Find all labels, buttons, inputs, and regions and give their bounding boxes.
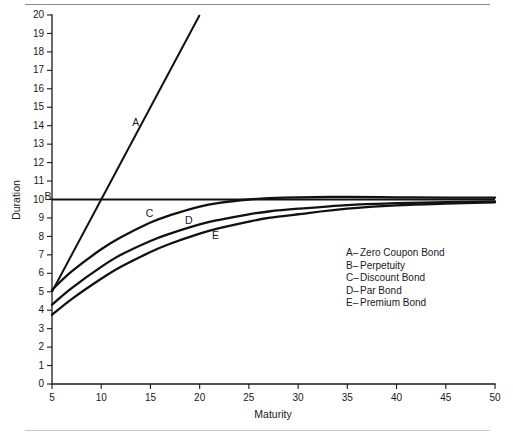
legend-marker-3: D– <box>346 285 359 296</box>
x-tick-label: 40 <box>391 392 403 403</box>
top-divider-rule <box>25 4 490 5</box>
series-inline-labels: ABCDE <box>45 116 219 241</box>
chart-legend: A–Zero Coupon BondB–PerpetuityC–Discount… <box>346 247 445 308</box>
x-tick-label: 45 <box>440 392 452 403</box>
y-tick-label: 9 <box>38 212 44 223</box>
y-tick-label: 18 <box>33 46 45 57</box>
y-tick-label: 8 <box>38 231 44 242</box>
y-tick-label: 13 <box>33 138 45 149</box>
y-tick-label: 0 <box>38 378 44 389</box>
series-label-a: A <box>132 116 139 128</box>
y-axis-title: Duration <box>10 180 22 220</box>
y-tick-label: 12 <box>33 157 45 168</box>
y-tick-label: 7 <box>38 249 44 260</box>
x-tick-label: 35 <box>342 392 354 403</box>
y-tick-label: 3 <box>38 323 44 334</box>
x-axis-ticks: 5101520253035404550 <box>49 384 501 403</box>
series-curve-e <box>52 202 495 315</box>
series-label-e: E <box>212 229 219 241</box>
y-tick-label: 17 <box>33 64 45 75</box>
legend-marker-4: E– <box>346 297 359 308</box>
y-tick-label: 20 <box>33 9 45 20</box>
legend-marker-0: A– <box>346 247 359 258</box>
x-tick-label: 30 <box>293 392 305 403</box>
legend-marker-1: B– <box>346 260 359 271</box>
duration-maturity-chart: 01234567891011121314151617181920 5101520… <box>0 0 513 435</box>
series-label-b: B <box>45 190 52 202</box>
y-tick-label: 14 <box>33 120 45 131</box>
y-tick-label: 2 <box>38 341 44 352</box>
x-tick-label: 25 <box>243 392 255 403</box>
y-tick-label: 10 <box>33 194 45 205</box>
x-tick-label: 10 <box>96 392 108 403</box>
series-label-d: D <box>185 214 193 226</box>
y-tick-label: 6 <box>38 267 44 278</box>
x-tick-label: 15 <box>145 392 157 403</box>
legend-marker-2: C– <box>346 272 359 283</box>
legend-label-1: Perpetuity <box>360 260 405 271</box>
x-tick-label: 5 <box>49 392 55 403</box>
figure-container: 01234567891011121314151617181920 5101520… <box>0 0 513 435</box>
y-tick-label: 19 <box>33 28 45 39</box>
legend-label-3: Par Bond <box>360 285 402 296</box>
x-axis-title: Maturity <box>254 408 292 420</box>
series-curves <box>52 15 495 315</box>
series-label-c: C <box>146 207 154 219</box>
y-tick-label: 16 <box>33 83 45 94</box>
y-tick-label: 11 <box>34 175 45 186</box>
legend-label-0: Zero Coupon Bond <box>360 247 445 258</box>
x-tick-label: 20 <box>194 392 206 403</box>
x-tick-label: 50 <box>489 392 501 403</box>
series-curve-a <box>52 15 200 292</box>
y-tick-label: 1 <box>38 360 44 371</box>
legend-label-2: Discount Bond <box>360 272 425 283</box>
legend-label-4: Premium Bond <box>360 297 426 308</box>
y-tick-label: 4 <box>38 304 44 315</box>
y-tick-label: 15 <box>33 101 45 112</box>
y-tick-label: 5 <box>38 286 44 297</box>
bottom-divider-rule <box>25 430 490 431</box>
